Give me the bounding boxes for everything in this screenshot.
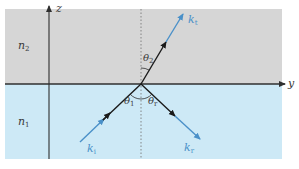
z-axis-label: z: [56, 3, 62, 14]
diagram-graphics: [0, 0, 299, 169]
k-reflected-label: kr: [184, 142, 194, 155]
k-transmitted-label: kt: [188, 14, 198, 27]
theta-1-label: θ1: [124, 96, 135, 108]
lower-medium-region: [5, 84, 282, 159]
refraction-diagram: z y n2 n1 θ2 θ1 θr kt ki kr: [0, 0, 299, 169]
upper-medium-region: [5, 9, 282, 84]
theta-1-subscript: 1: [130, 100, 134, 108]
upper-medium-label: n2: [18, 40, 30, 53]
y-axis-label-text: y: [288, 77, 294, 90]
upper-medium-subscript: 2: [25, 45, 29, 53]
k-transmitted-subscript: t: [195, 19, 198, 27]
theta-2-label: θ2: [143, 53, 154, 65]
k-incident-subscript: i: [94, 148, 96, 156]
k-reflected-subscript: r: [191, 147, 194, 155]
lower-medium-subscript: 1: [25, 121, 29, 129]
k-reflected-symbol: k: [184, 141, 191, 154]
k-incident-symbol: k: [87, 142, 94, 155]
k-incident-label: ki: [87, 143, 96, 156]
theta-r-subscript: r: [154, 100, 157, 108]
y-axis-label: y: [288, 78, 294, 89]
z-axis-label-text: z: [56, 2, 62, 15]
theta-r-label: θr: [148, 96, 157, 108]
lower-medium-label: n1: [18, 116, 30, 129]
k-transmitted-symbol: k: [188, 13, 195, 26]
theta-2-subscript: 2: [149, 57, 153, 65]
